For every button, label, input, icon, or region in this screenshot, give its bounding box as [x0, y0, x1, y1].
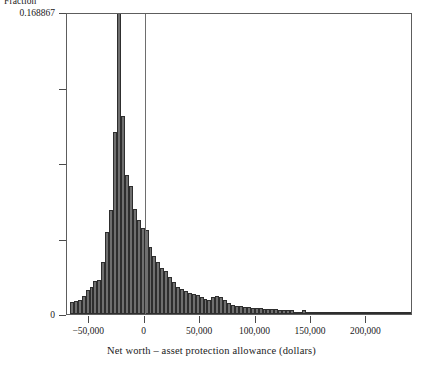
y-axis-title: Fraction: [4, 0, 36, 6]
x-axis-tick-label: 200,000: [350, 326, 381, 336]
y-axis-tick: [59, 315, 66, 316]
x-axis-tick: [199, 316, 200, 323]
y-axis-tick: [59, 13, 66, 14]
x-axis-tick-label: 150,000: [295, 326, 326, 336]
y-axis-tick: [59, 164, 66, 165]
plot-area: [67, 14, 411, 314]
y-axis-tick-label: 0.168867: [19, 8, 55, 18]
x-axis-tick-label: 50,000: [186, 326, 212, 336]
x-axis-title: Net worth – asset protection allowance (…: [0, 345, 423, 356]
plot-frame: [66, 13, 412, 315]
histogram-bar: [408, 312, 411, 314]
y-axis-tick: [59, 89, 66, 90]
x-axis-tick: [365, 316, 366, 323]
x-axis-tick-label: 0: [141, 326, 146, 336]
x-axis-tick: [255, 316, 256, 323]
y-axis-tick-label: 0: [50, 310, 55, 320]
zero-reference-line: [145, 14, 146, 314]
histogram-bars: [67, 14, 411, 314]
y-axis-tick: [59, 240, 66, 241]
histogram-figure: Fraction 00.168867 −50,000050,000100,000…: [0, 0, 423, 372]
x-axis-tick: [310, 316, 311, 323]
x-axis-tick: [88, 316, 89, 323]
x-axis-tick: [144, 316, 145, 323]
x-axis-tick-label: −50,000: [72, 326, 103, 336]
x-axis-tick-label: 100,000: [239, 326, 270, 336]
